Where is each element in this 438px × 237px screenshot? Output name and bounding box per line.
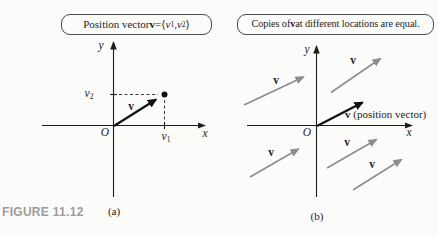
copy-arrow-bottom-right bbox=[353, 160, 402, 191]
panel-a-v1-label: v1 bbox=[162, 131, 171, 144]
copy-label-bottom-right: v bbox=[369, 159, 375, 171]
panel-b-x-axis-label: x bbox=[406, 127, 411, 139]
copy-arrow-bottom-left bbox=[250, 149, 299, 177]
callout-copies-equal: Copies of v at different locations are e… bbox=[237, 14, 434, 35]
panel-a-origin-label: O bbox=[101, 127, 109, 139]
callout-a-text: Position vector bbox=[83, 19, 149, 30]
copy-label-bottom-left: v bbox=[268, 147, 274, 159]
callout-b-text: Copies of bbox=[251, 19, 290, 29]
callout-position-vector: Position vector v = ⟨v1, v2⟩ bbox=[61, 14, 212, 35]
panel-a-tag: (a) bbox=[108, 205, 120, 217]
panel-a-x-axis-label: x bbox=[202, 128, 207, 140]
figure-caption: FIGURE 11.12 bbox=[2, 205, 84, 219]
panel-a-position-vector bbox=[114, 92, 168, 127]
panel-b-tag: (b) bbox=[311, 210, 324, 222]
figure-11-12: Position vector v = ⟨v1, v2⟩ Copies of v… bbox=[0, 0, 438, 237]
copy-label-mid-right: v bbox=[344, 137, 350, 149]
copy-label-top-left: v bbox=[273, 75, 279, 87]
copy-label-top-right: v bbox=[350, 55, 356, 67]
panel-a-endpoint-dot bbox=[162, 92, 168, 98]
panel-b-axes bbox=[247, 46, 412, 197]
panel-a-v2-label: v2 bbox=[85, 88, 94, 101]
panel-a-vector-label: v bbox=[128, 101, 134, 113]
panel-a-y-axis-label: y bbox=[98, 40, 103, 52]
panel-b-origin-label: O bbox=[303, 127, 311, 139]
panel-b-position-vector-label: v (position vector) bbox=[345, 109, 426, 120]
panel-b-y-axis-label: y bbox=[304, 44, 309, 56]
